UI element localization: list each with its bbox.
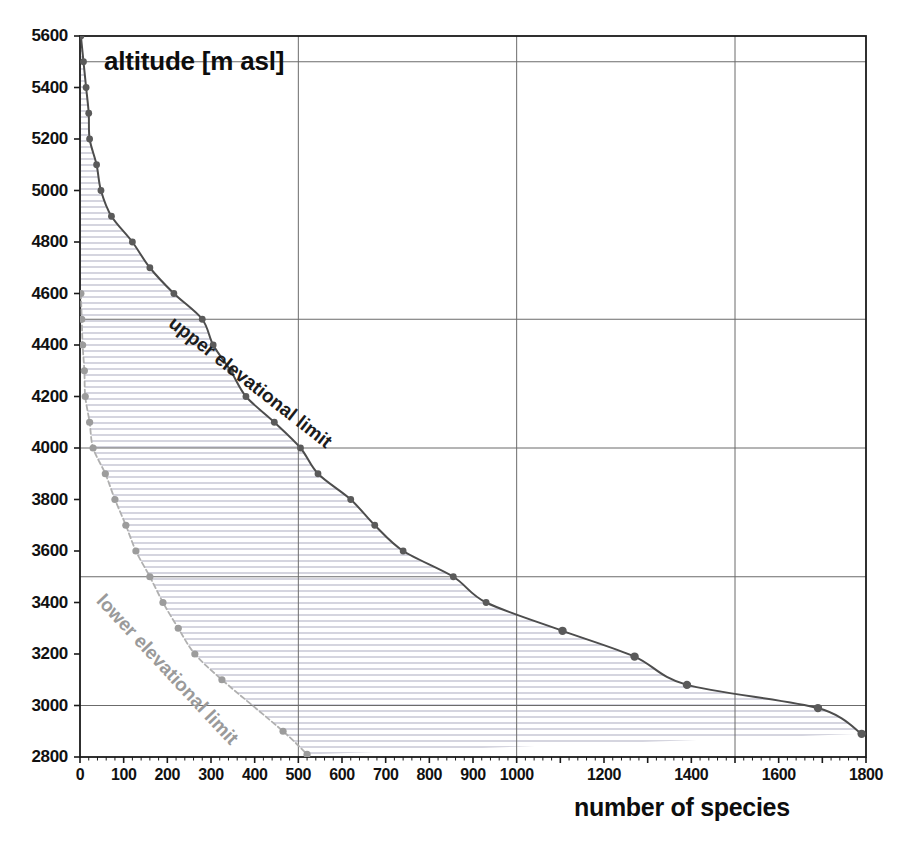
chart-title: altitude [m asl] [104,46,284,77]
y-tick-label: 4200 [0,387,68,407]
chart-root: altitude [m asl] number of species upper… [0,0,906,846]
y-tick-label: 5600 [0,26,68,46]
y-tick-label: 2800 [0,747,68,767]
y-tick-label: 4000 [0,438,68,458]
x-tick-label: 1200 [569,766,639,784]
y-tick-label: 5400 [0,78,68,98]
y-tick-label: 5000 [0,181,68,201]
y-tick-label: 3400 [0,593,68,613]
y-tick-label: 4600 [0,284,68,304]
y-tick-label: 3800 [0,490,68,510]
y-tick-label: 5200 [0,129,68,149]
x-tick-label: 1000 [482,766,552,784]
chart-plot-area [0,0,906,846]
y-tick-label: 3600 [0,541,68,561]
x-axis-title: number of species [574,793,790,822]
x-tick-label: 1800 [831,766,901,784]
y-tick-label: 4800 [0,232,68,252]
y-tick-label: 3200 [0,644,68,664]
shaded-region [81,36,862,754]
x-tick-label: 1600 [744,766,814,784]
y-tick-label: 3000 [0,696,68,716]
x-tick-label: 1400 [656,766,726,784]
y-tick-label: 4400 [0,335,68,355]
